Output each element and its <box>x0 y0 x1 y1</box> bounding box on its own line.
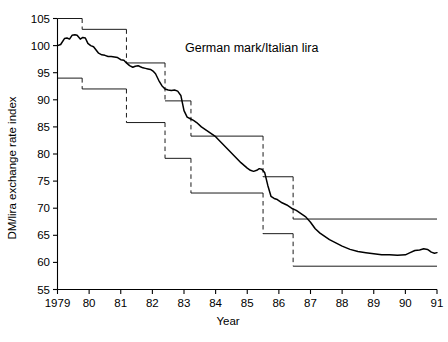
x-axis-title: Year <box>216 315 239 327</box>
axes-group <box>53 19 437 295</box>
intervention-bands <box>58 19 438 267</box>
y-axis-title: DM/lira exchange rate index <box>6 96 18 239</box>
series-group <box>58 35 438 256</box>
y-tick-label: 70 <box>37 202 50 214</box>
y-tick-label: 75 <box>37 175 50 187</box>
x-tick-label: 87 <box>304 297 317 309</box>
chart-canvas: 5560657075808590951001051979808182838485… <box>0 0 448 342</box>
lower-band-line <box>58 78 438 266</box>
x-tick-label: 86 <box>272 297 285 309</box>
axis-labels-group: 5560657075808590951001051979808182838485… <box>31 13 444 310</box>
y-tick-label: 85 <box>37 121 50 133</box>
x-tick-label: 84 <box>209 297 222 309</box>
x-tick-label: 90 <box>399 297 412 309</box>
x-tick-label: 85 <box>241 297 254 309</box>
y-tick-label: 100 <box>31 40 50 52</box>
y-tick-label: 60 <box>37 256 50 268</box>
x-tick-label: 80 <box>83 297 96 309</box>
x-tick-label: 82 <box>146 297 159 309</box>
y-tick-label: 65 <box>37 229 50 241</box>
x-tick-label: 83 <box>178 297 191 309</box>
series-line-0 <box>58 35 438 256</box>
chart-title: German mark/Italian lira <box>185 41 318 55</box>
x-tick-label: 91 <box>431 297 444 309</box>
exchange-rate-chart: 5560657075808590951001051979808182838485… <box>0 0 448 342</box>
y-tick-label: 105 <box>31 13 50 25</box>
y-tick-label: 80 <box>37 148 50 160</box>
y-tick-label: 95 <box>37 67 50 79</box>
x-tick-label: 89 <box>367 297 380 309</box>
x-tick-label: 81 <box>114 297 127 309</box>
x-tick-label: 1979 <box>45 297 71 309</box>
x-tick-label: 88 <box>336 297 349 309</box>
y-tick-label: 90 <box>37 94 50 106</box>
y-tick-label: 55 <box>37 284 50 296</box>
